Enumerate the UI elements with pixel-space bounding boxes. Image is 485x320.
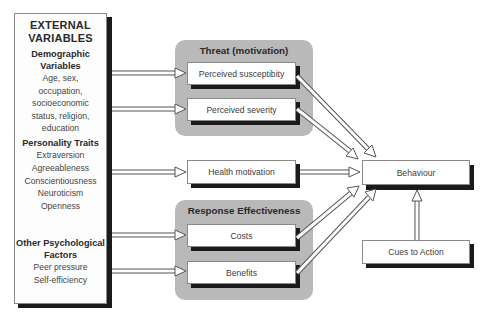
arrow-cues-to-behaviour	[412, 190, 422, 240]
arrow-to-costs	[112, 230, 186, 240]
arrow-costs-to-behaviour	[297, 186, 359, 238]
arrow-to-benefits	[112, 266, 186, 276]
arrow-to-susceptibility	[112, 68, 186, 78]
arrow-to-health-motivation	[112, 167, 186, 177]
arrow-to-severity	[112, 104, 186, 114]
arrow-health-to-behaviour	[300, 167, 360, 177]
arrow-severity-to-behaviour	[297, 109, 358, 159]
connector-arrows	[0, 0, 485, 320]
